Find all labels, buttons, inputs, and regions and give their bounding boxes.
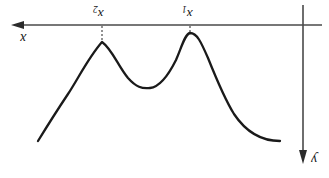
function-curve bbox=[38, 33, 280, 141]
marker-label-x2: x2 bbox=[93, 4, 103, 21]
figure-canvas bbox=[0, 0, 329, 178]
marker-label-x1-subscript: 1 bbox=[182, 4, 187, 14]
y-axis-label: y bbox=[311, 152, 317, 166]
x-axis-arrowhead-icon bbox=[11, 21, 24, 29]
marker-label-x2-subscript: 2 bbox=[93, 4, 98, 14]
y-axis-arrowhead-icon bbox=[299, 150, 307, 164]
x-axis-label: x bbox=[20, 31, 26, 45]
marker-label-x2-base: x bbox=[98, 7, 104, 22]
marker-label-x1: x1 bbox=[182, 4, 192, 21]
figure-container: x y x2 x1 bbox=[0, 0, 329, 178]
x-axis-group bbox=[11, 21, 322, 29]
y-axis-group bbox=[299, 5, 307, 164]
marker-label-x1-base: x bbox=[187, 7, 193, 22]
